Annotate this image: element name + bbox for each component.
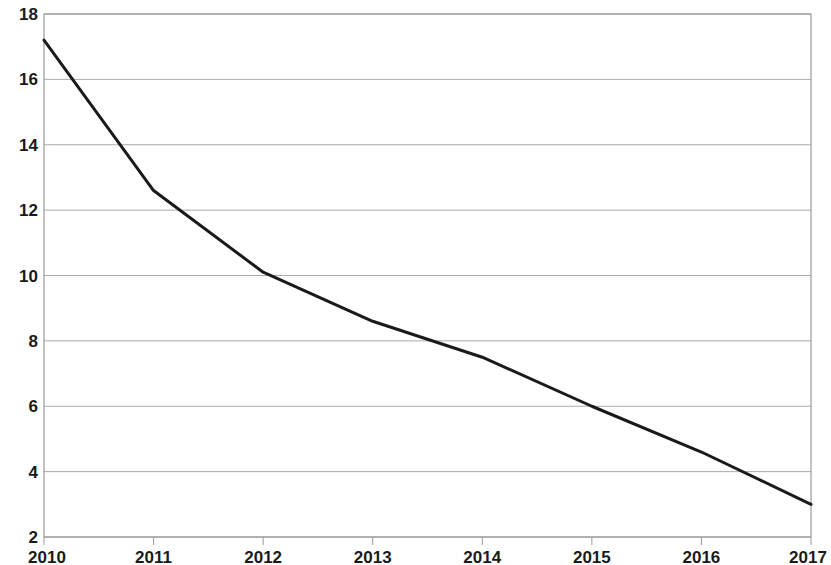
x-axis-tick-label: 2011: [109, 549, 199, 565]
y-axis-tick-label: 16: [0, 71, 38, 88]
data-series-line: [44, 40, 811, 504]
gridline-group: [44, 14, 811, 537]
x-tick-mark-group: [44, 537, 811, 545]
y-axis-tick-label: 14: [0, 137, 38, 154]
x-axis-tick-label: 2010: [2, 549, 92, 565]
x-axis-tick-label: 2017: [763, 549, 831, 565]
y-axis-tick-label: 8: [0, 333, 38, 350]
y-axis-tick-label: 2: [0, 529, 38, 546]
x-axis-tick-label: 2014: [437, 549, 527, 565]
x-axis-tick-label: 2012: [218, 549, 308, 565]
x-axis-tick-label: 2016: [656, 549, 746, 565]
y-axis-tick-label: 12: [0, 202, 38, 219]
x-axis-tick-label: 2013: [328, 549, 418, 565]
y-axis-tick-label: 18: [0, 6, 38, 23]
x-axis-tick-label: 2015: [547, 549, 637, 565]
y-axis-tick-label: 4: [0, 464, 38, 481]
y-axis-tick-label: 6: [0, 398, 38, 415]
y-axis-tick-label: 10: [0, 268, 38, 285]
